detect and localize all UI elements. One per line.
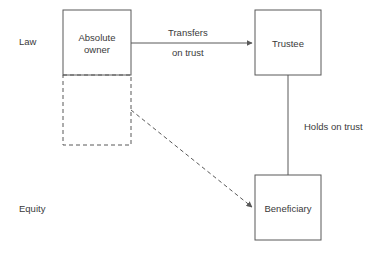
node-box-absolute-owner-equity bbox=[63, 75, 131, 145]
band-label-equity: Equity bbox=[19, 203, 45, 215]
trust-diagram: Absolute owner Trustee Beneficiary Trans… bbox=[0, 0, 382, 253]
node-box-absolute-owner bbox=[63, 10, 131, 75]
node-box-beneficiary bbox=[255, 175, 321, 240]
edge-label-transfers: Transfers bbox=[168, 27, 208, 39]
edge-label-holds-on-trust: Holds on trust bbox=[304, 121, 363, 133]
band-label-law: Law bbox=[19, 36, 36, 48]
edge-label-on-trust: on trust bbox=[172, 47, 204, 59]
edge-equitable-interest bbox=[131, 110, 252, 207]
node-box-trustee bbox=[255, 10, 321, 75]
